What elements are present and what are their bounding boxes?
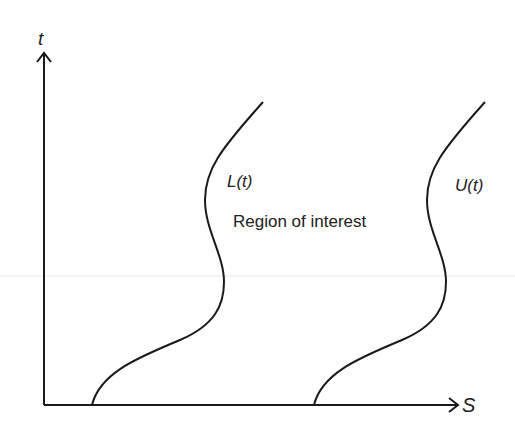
region-of-interest-label: Region of interest: [233, 212, 366, 232]
vertical-axis: [37, 53, 51, 405]
upper-boundary-label: U(t): [455, 176, 483, 196]
horizontal-axis-label: S: [462, 394, 475, 417]
horizontal-axis: [44, 398, 458, 412]
upper-boundary-curve: [314, 102, 485, 405]
lower-boundary-curve: [92, 102, 263, 405]
vertical-axis-label: t: [38, 28, 43, 50]
lower-boundary-label: L(t): [227, 172, 253, 192]
